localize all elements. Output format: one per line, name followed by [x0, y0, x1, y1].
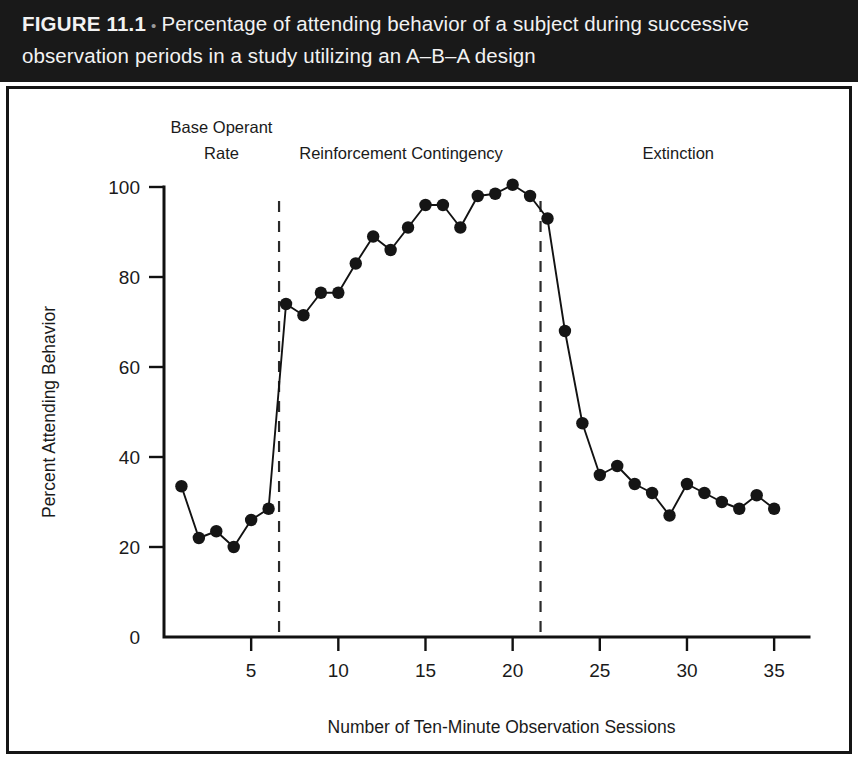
data-points — [175, 179, 780, 554]
y-tick-label: 40 — [119, 447, 140, 468]
y-axis-title: Percent Attending Behavior — [39, 306, 59, 518]
x-axis-title: Number of Ten-Minute Observation Session… — [328, 717, 676, 737]
data-point — [297, 309, 309, 321]
y-axis-ticks: 020406080100 — [108, 177, 164, 648]
data-point — [681, 478, 693, 490]
y-tick-label: 80 — [119, 267, 140, 288]
x-tick-label: 5 — [246, 660, 257, 681]
data-point — [315, 287, 327, 299]
x-tick-label: 15 — [415, 660, 436, 681]
x-tick-label: 30 — [676, 660, 697, 681]
figure-container: FIGURE 11.1•Percentage of attending beha… — [0, 0, 858, 762]
data-point — [193, 532, 205, 544]
data-point — [454, 221, 466, 233]
x-axis-ticks: 5101520253035 — [246, 637, 785, 681]
data-point — [611, 460, 623, 472]
plot-panel: Base OperantRateReinforcement Contingenc… — [6, 86, 852, 754]
data-point — [524, 190, 536, 202]
y-tick-label: 100 — [108, 177, 140, 198]
data-point — [628, 478, 640, 490]
data-point — [437, 199, 449, 211]
data-point — [402, 221, 414, 233]
data-point — [768, 503, 780, 515]
axis-lines — [164, 187, 809, 637]
x-tick-label: 25 — [589, 660, 610, 681]
x-tick-label: 35 — [764, 660, 785, 681]
data-point — [419, 199, 431, 211]
figure-caption: FIGURE 11.1•Percentage of attending beha… — [22, 9, 832, 71]
data-point — [262, 503, 274, 515]
data-point — [559, 325, 571, 337]
data-series-line — [181, 185, 774, 547]
x-tick-label: 10 — [328, 660, 349, 681]
data-point — [367, 230, 379, 242]
figure-number: FIGURE 11.1 — [22, 12, 146, 35]
bullet-separator-icon: • — [146, 17, 161, 34]
data-point — [541, 212, 553, 224]
phase-labels: Base OperantRateReinforcement Contingenc… — [171, 118, 714, 162]
data-point — [384, 244, 396, 256]
data-point — [332, 287, 344, 299]
data-point — [245, 514, 257, 526]
data-point — [751, 489, 763, 501]
phase-divider-lines — [279, 201, 540, 637]
data-point — [506, 179, 518, 191]
data-point — [489, 188, 501, 200]
y-tick-label: 0 — [129, 627, 140, 648]
chart-axes — [164, 187, 809, 637]
x-tick-label: 20 — [502, 660, 523, 681]
phase-label: Base Operant — [171, 118, 273, 136]
data-point — [210, 525, 222, 537]
data-point — [175, 480, 187, 492]
line-chart: Base OperantRateReinforcement Contingenc… — [9, 89, 849, 751]
phase-label: Extinction — [642, 144, 714, 162]
data-point — [228, 541, 240, 553]
data-point — [646, 487, 658, 499]
data-point — [280, 298, 292, 310]
data-point — [698, 487, 710, 499]
phase-label: Reinforcement Contingency — [299, 144, 503, 162]
data-point — [663, 509, 675, 521]
data-point — [716, 496, 728, 508]
data-point — [594, 469, 606, 481]
y-tick-label: 60 — [119, 357, 140, 378]
figure-caption-band: FIGURE 11.1•Percentage of attending beha… — [0, 0, 858, 82]
y-tick-label: 20 — [119, 537, 140, 558]
data-point — [733, 503, 745, 515]
data-point — [350, 257, 362, 269]
phase-label: Rate — [204, 144, 239, 162]
data-point — [472, 190, 484, 202]
data-point — [576, 417, 588, 429]
